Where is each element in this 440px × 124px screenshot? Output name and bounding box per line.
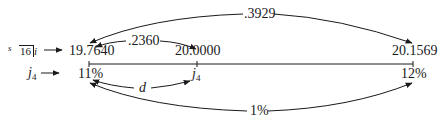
rate-12-percent: 12% bbox=[401, 67, 427, 81]
arc-label-1-percent: 1% bbox=[250, 104, 269, 118]
accumulation-prefix: s bbox=[8, 43, 12, 53]
rate-row-label: j4 bbox=[28, 66, 36, 80]
accumulation-angle-subscript: 16 bbox=[19, 45, 34, 57]
diagram-lines bbox=[0, 0, 440, 124]
arc-top-long-left bbox=[90, 14, 243, 43]
arc-label-d: d bbox=[139, 81, 146, 95]
arc-label-2360: .2360 bbox=[128, 34, 160, 48]
value-20-1569: 20.1569 bbox=[392, 44, 438, 58]
accumulation-row-label: s 16i bbox=[8, 44, 37, 58]
mid-rate-subscript: 4 bbox=[196, 73, 201, 83]
rate-11-percent: 11% bbox=[78, 67, 103, 81]
accumulation-suffix: i bbox=[34, 45, 37, 57]
arc-bottom-short-right bbox=[151, 81, 190, 88]
value-20-0000: 20.0000 bbox=[175, 44, 221, 58]
value-19-7640: 19.7640 bbox=[69, 44, 115, 58]
arc-bottom-long-left bbox=[90, 83, 247, 111]
arc-label-3929: .3929 bbox=[244, 7, 276, 21]
rate-j4-middle: j4 bbox=[192, 67, 200, 81]
arc-bottom-long-right bbox=[268, 83, 412, 111]
arc-top-long-right bbox=[274, 14, 412, 43]
rate-subscript: 4 bbox=[32, 72, 37, 82]
